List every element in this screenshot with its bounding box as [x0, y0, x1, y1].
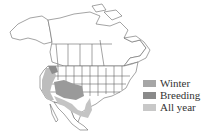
map-legend: Winter Breeding All year — [143, 78, 200, 114]
legend-item-winter: Winter — [143, 78, 200, 89]
legend-item-breeding: Breeding — [143, 90, 200, 101]
winter-swatch-icon — [143, 80, 156, 87]
legend-item-all-year: All year — [143, 102, 200, 113]
all-year-swatch-icon — [143, 104, 156, 111]
legend-label: All year — [160, 102, 196, 113]
legend-label: Winter — [160, 78, 190, 89]
legend-label: Breeding — [160, 90, 200, 101]
breeding-swatch-icon — [143, 92, 156, 99]
range-map: Winter Breeding All year — [0, 0, 206, 132]
